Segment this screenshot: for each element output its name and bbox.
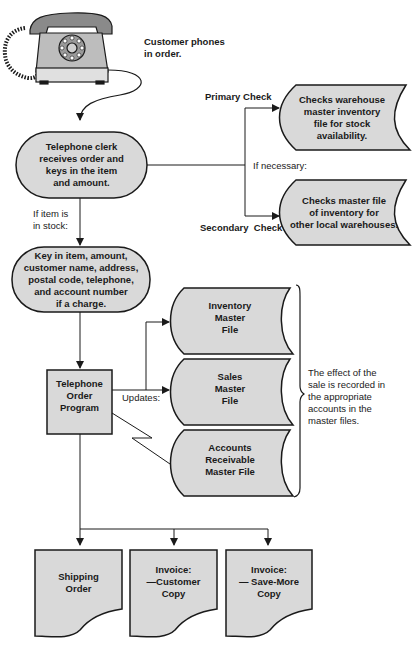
note-line: accounts in the	[308, 403, 385, 415]
file-line: File	[222, 324, 238, 336]
file-line: Sales	[218, 371, 243, 383]
in-stock-line: in stock:	[33, 220, 68, 232]
key-in-line: if a charge.	[56, 298, 106, 310]
file-line: file for stock	[314, 118, 371, 130]
doc-line: Order	[66, 583, 92, 595]
doc-line: Invoice:	[156, 564, 192, 576]
file-line: Master File	[205, 466, 255, 478]
brace-note: The effect of the sale is recorded in th…	[308, 367, 385, 427]
in-stock-line: If item is	[33, 208, 68, 220]
doc-line: Copy	[257, 588, 281, 600]
doc-line: — Save-More	[239, 576, 299, 588]
file-line: master inventory	[304, 106, 381, 118]
inventory-master-file: Inventory Master File	[174, 288, 286, 348]
file-line: Checks master file	[302, 195, 386, 207]
clerk-line: and amount.	[53, 177, 109, 189]
doc-line: Shipping	[58, 571, 99, 583]
key-in-terminal: Key in item, amount, customer name, addr…	[12, 247, 150, 312]
doc-line: Copy	[162, 588, 186, 600]
accounts-receivable-master-file: Accounts Receivable Master File	[174, 430, 286, 490]
brace-shape	[294, 285, 304, 497]
updates-label: Updates:	[122, 392, 160, 404]
file-line: Master	[215, 312, 246, 324]
invoice-savemore-copy-doc: Invoice: — Save-More Copy	[226, 560, 312, 604]
doc-line: —Customer	[147, 576, 201, 588]
program-line: Order	[67, 390, 93, 402]
file-line: of inventory for	[309, 207, 379, 219]
file-line: File	[222, 395, 238, 407]
start-caption-line: Customer phones	[144, 36, 225, 48]
key-in-line: Key in item, amount,	[35, 250, 128, 262]
note-line: The effect of the	[308, 367, 385, 379]
file-line: Receivable	[205, 454, 255, 466]
clerk-line: keys in the item	[46, 165, 117, 177]
in-stock-label: If item is in stock:	[33, 208, 68, 232]
start-caption: Customer phones in order.	[144, 36, 225, 60]
note-line: master files.	[308, 415, 385, 427]
file-line: Inventory	[209, 300, 252, 312]
file-line: Accounts	[208, 442, 251, 454]
start-caption-line: in order.	[144, 48, 225, 60]
clerk-terminal: Telephone clerk receives order and keys …	[16, 132, 147, 198]
program-line: Telephone	[56, 378, 103, 390]
key-in-line: and account number	[34, 286, 127, 298]
secondary-check-label: Secondary Check	[200, 222, 282, 234]
sales-master-file: Sales Master File	[174, 359, 286, 419]
shipping-order-doc: Shipping Order	[35, 565, 122, 601]
clerk-line: Telephone clerk	[46, 141, 118, 153]
key-in-line: postal code, telephone,	[28, 274, 134, 286]
primary-check-file: Checks warehouse master inventory file f…	[286, 85, 398, 150]
telephone-icon	[5, 13, 141, 120]
file-line: Master	[215, 383, 246, 395]
invoice-customer-copy-doc: Invoice: —Customer Copy	[130, 560, 217, 604]
if-necessary-label: If necessary:	[253, 160, 307, 172]
note-line: the appropriate	[308, 391, 385, 403]
file-line: Checks warehouse	[299, 94, 385, 106]
file-line: availability.	[317, 130, 368, 142]
program-line: Program	[60, 402, 99, 414]
primary-check-label: Primary Check	[205, 91, 272, 103]
doc-line: Invoice:	[251, 564, 287, 576]
program-box: Telephone Order Program	[47, 370, 112, 422]
key-in-line: customer name, address,	[24, 262, 139, 274]
secondary-check-file: Checks master file of inventory for othe…	[286, 180, 402, 245]
note-line: sale is recorded in	[308, 379, 385, 391]
clerk-line: receives order and	[39, 153, 124, 165]
file-line: other local warehouses.	[290, 219, 398, 231]
